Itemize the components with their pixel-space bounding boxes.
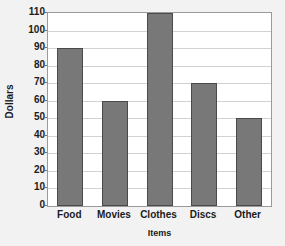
- y-axis-tick-label: 80: [3, 60, 45, 70]
- bar-food: [57, 48, 83, 206]
- bars-group: [48, 13, 271, 206]
- bar-movies: [102, 101, 128, 206]
- y-axis-tick-label: 100: [3, 25, 45, 35]
- x-axis-tick-label: Clothes: [136, 209, 181, 221]
- y-axis-tick-label: 50: [3, 112, 45, 122]
- bar-discs: [191, 83, 217, 206]
- y-axis-tick-label: 10: [3, 182, 45, 192]
- y-axis-tick-label: 110: [3, 7, 45, 17]
- y-axis-tick-label: 40: [3, 130, 45, 140]
- bar-other: [236, 118, 262, 206]
- y-axis-tick-label: 30: [3, 147, 45, 157]
- y-axis-tick-label: 0: [3, 200, 45, 210]
- y-axis-tick-label: 60: [3, 95, 45, 105]
- x-axis-tick-label: Movies: [92, 209, 137, 221]
- y-axis-tick-label: 90: [3, 42, 45, 52]
- x-axis-tick-label: Discs: [181, 209, 226, 221]
- x-axis-title: Items: [47, 228, 272, 238]
- x-axis-tick-label: Food: [47, 209, 92, 221]
- chart-title: [0, 0, 285, 5]
- plot-area: [47, 12, 272, 207]
- x-axis-tick-label: Other: [225, 209, 270, 221]
- bar-chart-figure: Dollars 0102030405060708090100110 FoodMo…: [0, 0, 285, 246]
- y-axis: 0102030405060708090100110: [0, 12, 45, 207]
- y-axis-tick-label: 70: [3, 77, 45, 87]
- x-axis-tick-labels: FoodMoviesClothesDiscsOther: [47, 209, 272, 223]
- y-axis-tick-label: 20: [3, 165, 45, 175]
- bar-clothes: [147, 13, 173, 206]
